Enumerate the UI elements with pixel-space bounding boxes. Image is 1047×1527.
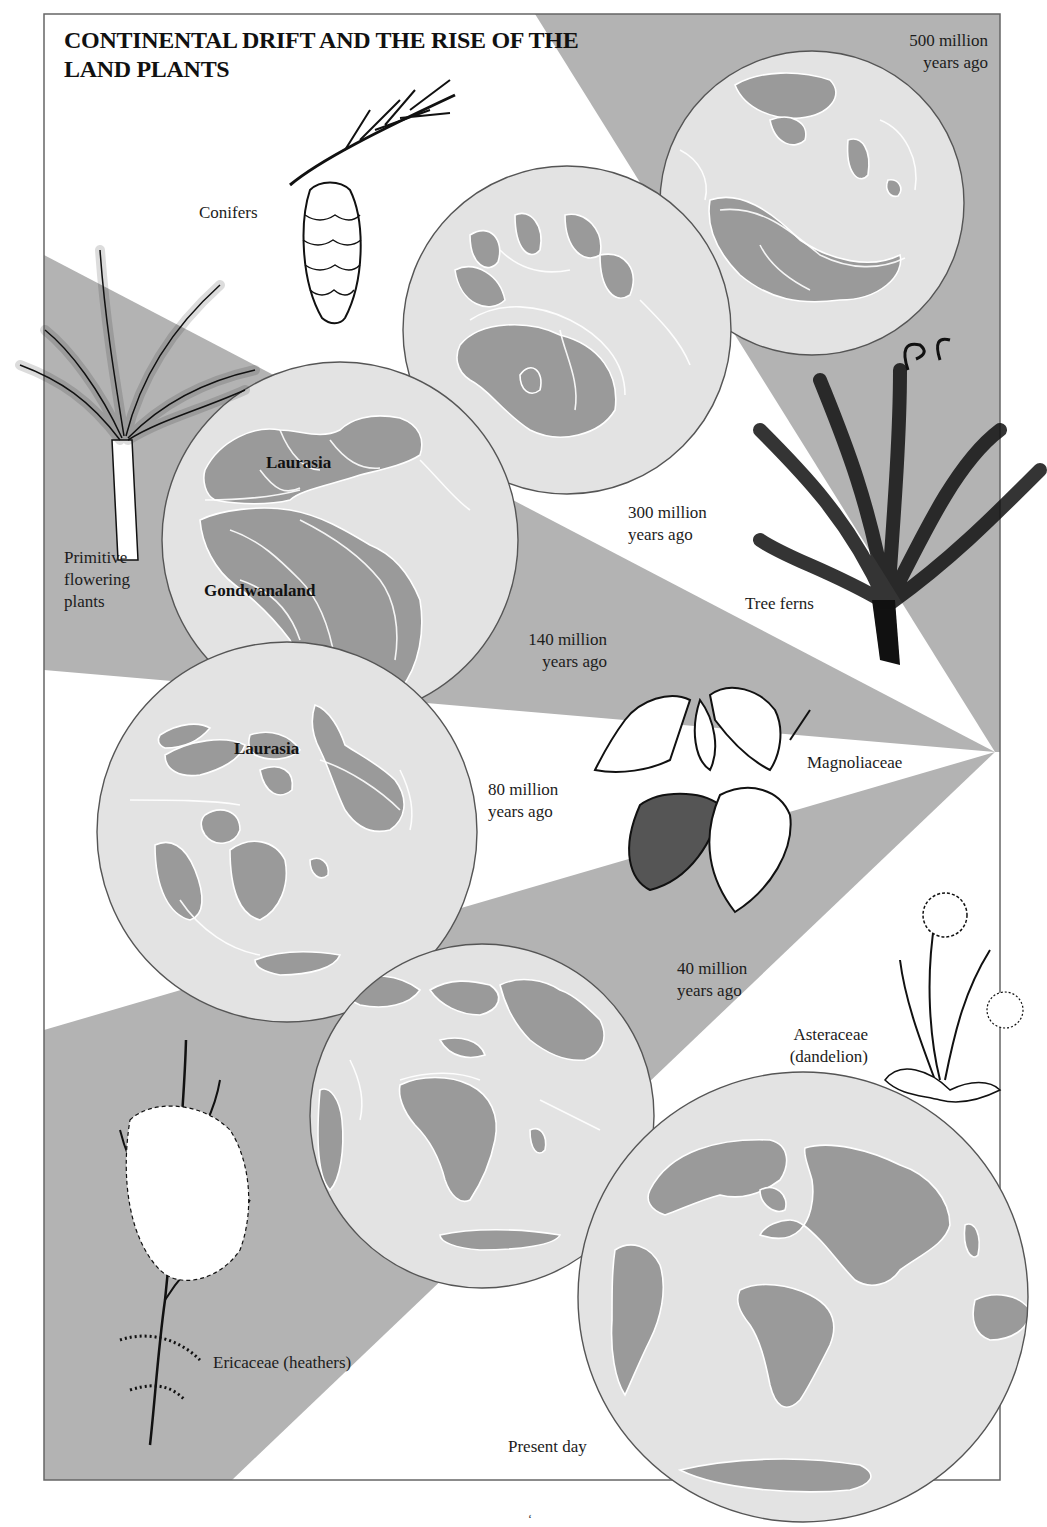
plant-label-conifers: Conifers: [199, 202, 258, 224]
tree-ferns-text: Tree ferns: [745, 593, 814, 615]
diagram-stage: Laurasia Gondwanaland Laurasia: [0, 0, 1047, 1527]
era-140-line2: years ago: [490, 651, 607, 673]
globe-present-day: [578, 1072, 1030, 1522]
continent-label-laurasia-80: Laurasia: [234, 739, 300, 758]
primitive-line2: flowering: [64, 569, 130, 591]
era-label-140: 140 million years ago: [490, 629, 607, 673]
era-label-300: 300 million years ago: [628, 502, 707, 546]
ericaceae-text: Ericaceae (heathers): [213, 1352, 351, 1374]
conifers-text: Conifers: [199, 202, 258, 224]
era-300-line1: 300 million: [628, 502, 707, 524]
primitive-line3: plants: [64, 591, 130, 613]
era-300-line2: years ago: [628, 524, 707, 546]
plant-label-ericaceae: Ericaceae (heathers): [213, 1352, 351, 1374]
magnoliaceae-text: Magnoliaceae: [807, 752, 902, 774]
asteraceae-line1: Asteraceae: [770, 1024, 868, 1046]
era-140-line1: 140 million: [490, 629, 607, 651]
plant-label-primitive-flowering: Primitive flowering plants: [64, 547, 130, 613]
continent-label-gondwanaland: Gondwanaland: [204, 581, 316, 600]
continent-label-laurasia-140: Laurasia: [266, 453, 332, 472]
plant-label-magnoliaceae: Magnoliaceae: [807, 752, 902, 774]
era-40-line2: years ago: [677, 980, 747, 1002]
era-500-line1: 500 million: [870, 30, 988, 52]
era-label-500: 500 million years ago: [870, 30, 988, 74]
era-500-line2: years ago: [870, 52, 988, 74]
era-present-line1: Present day: [508, 1436, 587, 1458]
page-title: CONTINENTAL DRIFT AND THE RISE OF THE LA…: [64, 26, 578, 84]
era-label-80: 80 million years ago: [488, 779, 558, 823]
primitive-line1: Primitive: [64, 547, 130, 569]
era-80-line2: years ago: [488, 801, 558, 823]
plant-label-asteraceae: Asteraceae (dandelion): [770, 1024, 868, 1068]
page-mark: ‘: [528, 1512, 532, 1527]
asteraceae-line2: (dandelion): [770, 1046, 868, 1068]
era-label-present: Present day: [508, 1436, 587, 1458]
plant-label-tree-ferns: Tree ferns: [745, 593, 814, 615]
era-40-line1: 40 million: [677, 958, 747, 980]
era-label-40: 40 million years ago: [677, 958, 747, 1002]
title-line-2: LAND PLANTS: [64, 55, 578, 84]
era-80-line1: 80 million: [488, 779, 558, 801]
title-line-1: CONTINENTAL DRIFT AND THE RISE OF THE: [64, 26, 578, 55]
